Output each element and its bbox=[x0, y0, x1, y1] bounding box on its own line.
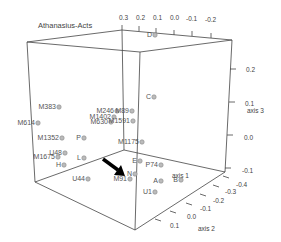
cube-frame bbox=[27, 30, 232, 230]
data-point-label: H bbox=[56, 161, 61, 168]
data-point-marker bbox=[179, 178, 183, 182]
data-point-marker bbox=[140, 140, 144, 144]
scatter3d-plot: 0.3 0.2 0.1 0.0 -0.1 -0.2 0.2 0.1 0.0 -0… bbox=[0, 0, 281, 242]
data-point-label: U1 bbox=[143, 188, 152, 195]
data-point-marker bbox=[159, 163, 163, 167]
z-tick: -0.1 bbox=[242, 167, 254, 174]
data-point-marker bbox=[153, 190, 157, 194]
data-point-marker bbox=[82, 136, 86, 140]
data-points: DM383M614M246M1402M630M1591M89CM1352PM11… bbox=[17, 31, 183, 195]
data-point-marker bbox=[63, 151, 67, 155]
y-tick: 0.0 bbox=[187, 213, 196, 220]
data-point-label: M89 bbox=[115, 107, 129, 114]
data-point-label: M630 bbox=[90, 118, 108, 125]
data-point-marker bbox=[86, 177, 90, 181]
data-point-marker bbox=[153, 33, 157, 37]
x-tick: 0.2 bbox=[136, 14, 145, 21]
data-point-label: U44 bbox=[72, 175, 85, 182]
data-point-label: C bbox=[146, 93, 151, 100]
data-point-marker bbox=[130, 109, 134, 113]
data-point-label: M614 bbox=[17, 119, 35, 126]
chart-title: Athanasius-Acts bbox=[38, 21, 92, 30]
data-point-marker bbox=[131, 119, 135, 123]
y-tick: -0.2 bbox=[213, 197, 225, 204]
data-point-label: P bbox=[76, 134, 81, 141]
y-tick: -0.1 bbox=[200, 205, 212, 212]
data-point-marker bbox=[56, 155, 60, 159]
data-point-marker bbox=[57, 105, 61, 109]
data-point-label: M1352 bbox=[38, 134, 60, 141]
data-point-marker bbox=[133, 172, 137, 176]
data-point-label: M1591 bbox=[109, 117, 131, 124]
z-tick: 0.2 bbox=[246, 66, 255, 73]
data-point-marker bbox=[152, 95, 156, 99]
y-axis-label: axis 2 bbox=[198, 225, 215, 232]
y-tick: -0.4 bbox=[236, 181, 248, 188]
data-point-label: P74 bbox=[146, 161, 159, 168]
data-point-marker bbox=[159, 179, 163, 183]
data-point-label: E bbox=[132, 157, 137, 164]
data-point-label: M1675 bbox=[34, 153, 56, 160]
z-axis-ticks bbox=[225, 69, 236, 168]
plot-canvas: 0.3 0.2 0.1 0.0 -0.1 -0.2 0.2 0.1 0.0 -0… bbox=[0, 0, 281, 242]
data-point-label: D bbox=[147, 31, 152, 38]
data-point-marker bbox=[62, 163, 66, 167]
z-tick: 0.0 bbox=[244, 134, 253, 141]
data-point-marker bbox=[128, 177, 132, 181]
data-point-label: B bbox=[173, 176, 178, 183]
data-point-label: M1175 bbox=[118, 138, 139, 145]
x-tick: 0.0 bbox=[170, 14, 179, 21]
x-tick: 0.3 bbox=[119, 14, 128, 21]
y-tick: 0.1 bbox=[170, 222, 179, 229]
data-point-marker bbox=[60, 136, 64, 140]
x-tick: 0.1 bbox=[153, 14, 162, 21]
z-tick: 0.1 bbox=[245, 100, 254, 107]
arrow-annotation-icon bbox=[103, 159, 125, 176]
data-point-label: A bbox=[153, 177, 158, 184]
x-tick: -0.1 bbox=[186, 15, 198, 22]
data-point-marker bbox=[36, 121, 40, 125]
data-point-label: M91 bbox=[113, 175, 127, 182]
z-axis-label: axis 3 bbox=[247, 107, 264, 114]
data-point-label: L bbox=[77, 154, 81, 161]
data-point-label: M383 bbox=[38, 103, 56, 110]
data-point-marker bbox=[82, 156, 86, 160]
x-tick: -0.2 bbox=[205, 16, 217, 23]
data-point-marker bbox=[138, 159, 142, 163]
y-tick: -0.3 bbox=[225, 188, 237, 195]
data-point-label: N bbox=[127, 170, 132, 177]
